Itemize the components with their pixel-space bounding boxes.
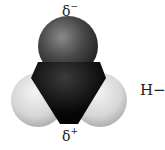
- partial-negative-charge-label: δ−: [62, 4, 78, 18]
- hydrogen-bond-text: H−: [140, 83, 165, 98]
- partial-positive-charge-label: δ+: [62, 129, 78, 143]
- water-molecule-model: [0, 0, 165, 150]
